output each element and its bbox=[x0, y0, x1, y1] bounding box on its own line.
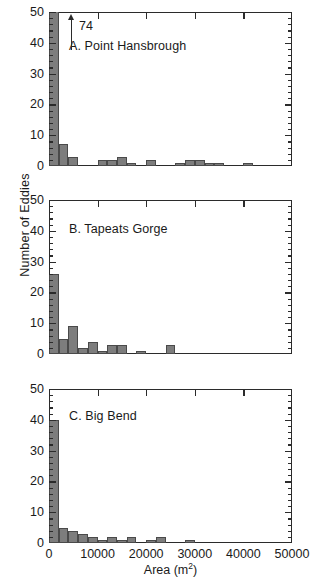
y-axis-major-tick bbox=[49, 420, 56, 421]
histogram-bar bbox=[78, 534, 88, 543]
histogram-bar bbox=[185, 160, 195, 166]
y-axis-minor-tick bbox=[49, 123, 53, 124]
y-axis-right-major-tick bbox=[285, 74, 292, 75]
histogram-bar bbox=[107, 345, 117, 354]
y-axis-minor-tick bbox=[49, 463, 53, 464]
histogram-bar bbox=[146, 540, 156, 543]
y-axis-minor-tick bbox=[49, 268, 53, 269]
histogram-bar bbox=[136, 351, 146, 354]
y-axis-right-minor-tick bbox=[288, 37, 292, 38]
y-axis-tick-label: 20 bbox=[30, 286, 44, 299]
y-axis-major-tick bbox=[49, 292, 56, 293]
histogram-bar bbox=[117, 540, 127, 543]
x-axis-tick-label: 50000 bbox=[275, 548, 310, 561]
y-axis-tick-label: 0 bbox=[37, 160, 44, 173]
y-axis-minor-tick bbox=[49, 206, 53, 207]
y-axis-right-minor-tick bbox=[288, 280, 292, 281]
y-axis-tick-label: 40 bbox=[30, 414, 44, 427]
y-axis-minor-tick bbox=[49, 243, 53, 244]
y-axis-major-tick bbox=[49, 104, 56, 105]
y-axis-right-minor-tick bbox=[288, 311, 292, 312]
y-axis-right-minor-tick bbox=[288, 80, 292, 81]
y-axis-right-major-tick bbox=[285, 231, 292, 232]
y-axis-minor-tick bbox=[49, 395, 53, 396]
y-axis-minor-tick bbox=[49, 432, 53, 433]
y-axis-right-minor-tick bbox=[288, 67, 292, 68]
histogram-bar bbox=[98, 351, 108, 354]
y-axis-right-minor-tick bbox=[288, 444, 292, 445]
y-axis-right-major-tick bbox=[285, 292, 292, 293]
y-axis-right-minor-tick bbox=[288, 30, 292, 31]
y-axis-minor-tick bbox=[49, 148, 53, 149]
y-axis-minor-tick bbox=[49, 225, 53, 226]
y-axis-major-tick bbox=[49, 262, 56, 263]
histogram-bar bbox=[243, 163, 253, 166]
y-axis-minor-tick bbox=[49, 342, 53, 343]
y-axis-minor-tick bbox=[49, 212, 53, 213]
y-axis-right-minor-tick bbox=[288, 218, 292, 219]
y-axis-major-tick bbox=[49, 323, 56, 324]
histogram-bar bbox=[49, 12, 59, 166]
y-axis-right-major-tick bbox=[285, 262, 292, 263]
y-axis-minor-tick bbox=[49, 55, 53, 56]
y-axis-right-minor-tick bbox=[288, 24, 292, 25]
y-axis-major-tick bbox=[49, 389, 56, 390]
x-axis-top-major-tick bbox=[98, 12, 99, 19]
y-axis-minor-tick bbox=[49, 92, 53, 93]
y-axis-right-minor-tick bbox=[288, 469, 292, 470]
y-axis-minor-tick bbox=[49, 18, 53, 19]
y-axis-right-minor-tick bbox=[288, 342, 292, 343]
y-axis-right-minor-tick bbox=[288, 305, 292, 306]
y-axis-minor-tick bbox=[49, 438, 53, 439]
y-axis-right-major-tick bbox=[285, 323, 292, 324]
y-axis-right-minor-tick bbox=[288, 18, 292, 19]
y-axis-minor-tick bbox=[49, 426, 53, 427]
y-axis-right-minor-tick bbox=[288, 237, 292, 238]
histogram-bar bbox=[127, 537, 137, 543]
y-axis-right-minor-tick bbox=[288, 123, 292, 124]
eddy-area-histogram-figure: Number of Eddies A. Point Hansbrough 74 … bbox=[0, 0, 319, 587]
overflow-value-label: 74 bbox=[79, 20, 93, 33]
y-axis-tick-label: 10 bbox=[30, 129, 44, 142]
y-axis-right-minor-tick bbox=[288, 537, 292, 538]
y-axis-right-minor-tick bbox=[288, 249, 292, 250]
y-axis-tick-label: 50 bbox=[30, 383, 44, 396]
y-axis-minor-tick bbox=[49, 49, 53, 50]
histogram-bar bbox=[195, 160, 205, 166]
up-arrow-shaft bbox=[71, 18, 72, 50]
x-axis-top-major-tick bbox=[243, 12, 244, 19]
histogram-bar bbox=[68, 326, 78, 354]
y-axis-right-minor-tick bbox=[288, 329, 292, 330]
panel-b-title: B. Tapeats Gorge bbox=[69, 222, 168, 236]
y-axis-right-minor-tick bbox=[288, 407, 292, 408]
y-axis-minor-tick bbox=[49, 317, 53, 318]
y-axis-tick-label: 10 bbox=[30, 317, 44, 330]
y-axis-right-minor-tick bbox=[288, 255, 292, 256]
y-axis-right-minor-tick bbox=[288, 414, 292, 415]
y-axis-minor-tick bbox=[49, 407, 53, 408]
y-axis-minor-tick bbox=[49, 414, 53, 415]
y-axis-major-tick bbox=[49, 135, 56, 136]
y-axis-minor-tick bbox=[49, 280, 53, 281]
y-axis-minor-tick bbox=[49, 299, 53, 300]
y-axis-minor-tick bbox=[49, 129, 53, 130]
y-axis-minor-tick bbox=[49, 249, 53, 250]
y-axis-right-minor-tick bbox=[288, 129, 292, 130]
y-axis-right-minor-tick bbox=[288, 299, 292, 300]
y-axis-minor-tick bbox=[49, 286, 53, 287]
histogram-bar bbox=[127, 163, 137, 166]
y-axis-minor-tick bbox=[49, 117, 53, 118]
x-axis-tick-label: 10000 bbox=[80, 548, 115, 561]
x-axis-label-base: Area (m bbox=[144, 563, 188, 577]
y-axis-minor-tick bbox=[49, 525, 53, 526]
y-axis-right-minor-tick bbox=[288, 488, 292, 489]
y-axis-right-minor-tick bbox=[288, 348, 292, 349]
x-axis-tick-label: 30000 bbox=[177, 548, 212, 561]
y-axis-right-major-tick bbox=[285, 420, 292, 421]
y-axis-right-minor-tick bbox=[288, 274, 292, 275]
y-axis-tick-label: 40 bbox=[30, 225, 44, 238]
y-axis-major-tick bbox=[49, 43, 56, 44]
histogram-bar bbox=[185, 540, 195, 543]
y-axis-minor-tick bbox=[49, 274, 53, 275]
y-axis-right-major-tick bbox=[285, 200, 292, 201]
